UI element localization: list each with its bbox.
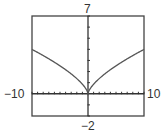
graphing-calculator-plot: [0, 0, 162, 138]
x-max-label: 10: [147, 88, 160, 100]
y-max-label: 7: [84, 3, 91, 15]
x-min-label: −10: [4, 88, 24, 100]
y-min-label: −2: [81, 120, 95, 132]
